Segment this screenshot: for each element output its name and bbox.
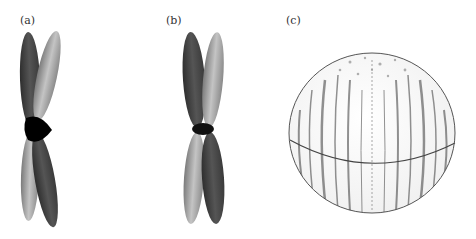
sphere-c bbox=[289, 53, 455, 213]
chromosome-b bbox=[180, 31, 228, 224]
figure-canvas bbox=[0, 0, 476, 239]
chromosome-a bbox=[18, 29, 66, 229]
